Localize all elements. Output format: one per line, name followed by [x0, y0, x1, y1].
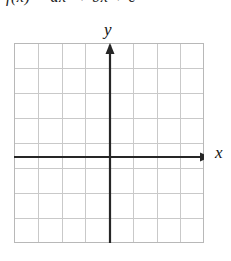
worksheet-figure: f(x) = ax² + bx + c y x: [0, 0, 231, 261]
x-axis-label: x: [215, 144, 223, 161]
equation-fragment-text: f(x) = ax² + bx + c: [6, 0, 136, 6]
coordinate-grid: [14, 43, 204, 243]
equation-fragment-clip: f(x) = ax² + bx + c: [0, 0, 231, 12]
coordinate-grid-svg: [14, 43, 204, 243]
y-axis-label: y: [104, 21, 112, 38]
